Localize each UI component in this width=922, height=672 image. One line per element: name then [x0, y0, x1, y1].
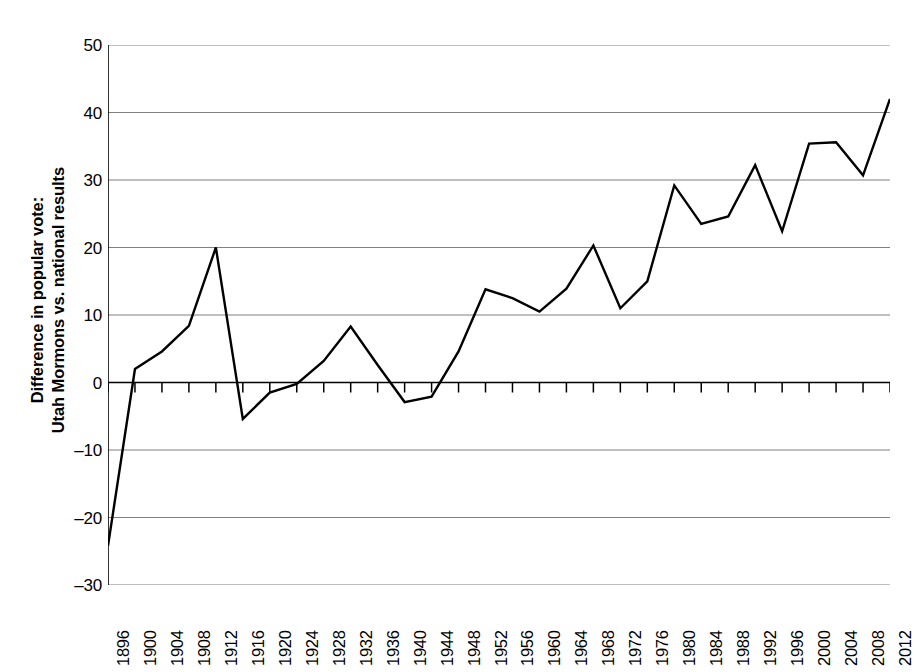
- data-line-series-1: [108, 99, 890, 546]
- y-tick-label: 0: [56, 374, 102, 391]
- x-axis-tick-labels: 1896190019041908191219161920192419281932…: [108, 588, 890, 672]
- y-tick-label: 40: [56, 104, 102, 121]
- y-tick-label: 20: [56, 239, 102, 256]
- y-axis-tick-labels: 50403020100–10–20–30: [50, 0, 102, 672]
- plot-area: [108, 45, 890, 585]
- y-tick-label: 30: [56, 172, 102, 189]
- y-tick-label: –10: [56, 442, 102, 459]
- y-tick-label: –30: [56, 577, 102, 594]
- chart-figure: Difference in popular vote: Utah Mormons…: [0, 0, 922, 672]
- y-axis-title-line-1: Difference in popular vote:: [27, 167, 48, 433]
- x-axis-tick-marks: [108, 383, 890, 393]
- y-tick-label: 50: [56, 37, 102, 54]
- y-tick-label: –20: [56, 509, 102, 526]
- y-tick-label: 10: [56, 307, 102, 324]
